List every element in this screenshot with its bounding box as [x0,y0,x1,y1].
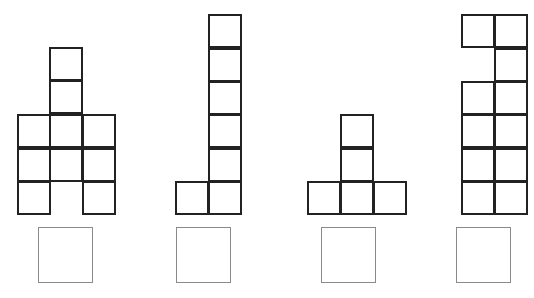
grid-cell [208,48,242,82]
grid-cell [49,80,83,114]
grid-cell [494,148,528,182]
grid-cell [49,47,83,81]
grid-cell [208,14,242,48]
grid-cell [175,181,209,215]
grid-cell [461,81,495,115]
grid-cell [208,114,242,148]
grid-cell [461,148,495,182]
grid-cell [82,181,116,215]
answer-box-2[interactable] [176,227,231,283]
grid-cell [461,181,495,215]
grid-cell [494,14,528,48]
grid-cell [208,81,242,115]
grid-cell [208,148,242,182]
answer-box-3[interactable] [321,227,376,283]
answer-box-4[interactable] [456,227,511,283]
grid-cell [340,181,374,215]
grid-cell [49,148,83,182]
grid-cell [49,114,83,148]
grid-cell [461,14,495,48]
grid-cell [494,181,528,215]
grid-cell [17,181,51,215]
grid-cell [340,148,374,182]
grid-cell [17,148,51,182]
grid-cell [494,81,528,115]
grid-cell [373,181,407,215]
grid-cell [340,114,374,148]
grid-cell [82,148,116,182]
grid-cell [494,114,528,148]
grid-cell [82,114,116,148]
grid-cell [208,181,242,215]
grid-cell [461,114,495,148]
answer-box-1[interactable] [38,227,93,283]
grid-cell [494,48,528,82]
grid-cell [307,181,341,215]
grid-cell [17,114,51,148]
